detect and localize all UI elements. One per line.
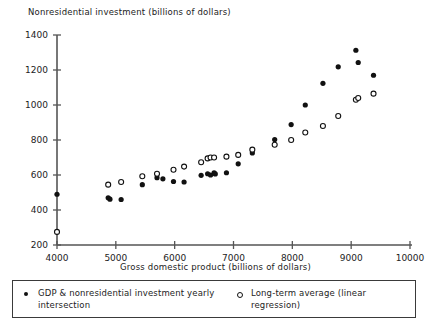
data-point-observed: [371, 73, 376, 78]
data-point-regression: [371, 91, 376, 96]
y-axis-tick-label: 200: [31, 240, 48, 250]
plot-area: 2004006008001000120014004000500060007000…: [0, 0, 431, 262]
y-axis-tick-label: 1000: [25, 100, 48, 110]
x-axis-tick-label: 8000: [281, 253, 304, 262]
data-point-regression: [155, 171, 160, 176]
data-point-regression: [289, 138, 294, 143]
x-axis-title: Gross domestic product (billions of doll…: [0, 262, 431, 272]
data-point-regression: [199, 160, 204, 165]
data-point-observed: [199, 173, 204, 178]
data-point-regression: [224, 154, 229, 159]
y-axis-tick-label: 600: [31, 170, 48, 180]
x-axis-tick-label: 6000: [163, 253, 186, 262]
data-point-observed: [119, 197, 124, 202]
y-axis-tick-label: 800: [31, 135, 48, 145]
scatter-chart: Nonresidential investment (billions of d…: [0, 0, 431, 330]
y-axis-tick-label: 400: [31, 205, 48, 215]
data-point-observed: [303, 102, 308, 107]
data-point-observed: [272, 137, 277, 142]
data-point-observed: [353, 48, 358, 53]
x-axis-tick-label: 9000: [340, 253, 363, 262]
data-point-regression: [212, 155, 217, 160]
x-axis-tick-label: 10000: [396, 253, 425, 262]
data-point-regression: [106, 182, 111, 187]
data-point-observed: [356, 60, 361, 65]
y-axis-tick-label: 1200: [25, 65, 48, 75]
data-point-observed: [224, 170, 229, 175]
data-point-regression: [171, 167, 176, 172]
data-point-observed: [140, 182, 145, 187]
data-point-regression: [236, 152, 241, 157]
y-axis-tick-label: 1400: [25, 30, 48, 40]
data-point-regression: [272, 142, 277, 147]
data-point-regression: [336, 114, 341, 119]
data-point-regression: [356, 96, 361, 101]
filled-circle-icon: [22, 290, 31, 299]
data-point-observed: [289, 122, 294, 127]
data-point-observed: [336, 64, 341, 69]
x-axis-tick-label: 7000: [222, 253, 245, 262]
legend-item-regression: Long-term average (linear regression): [235, 288, 410, 311]
data-point-observed: [213, 171, 218, 176]
data-point-regression: [55, 229, 60, 234]
data-point-regression: [250, 147, 255, 152]
legend-item-observed: GDP & nonresidential investment yearly i…: [22, 288, 230, 311]
legend: GDP & nonresidential investment yearly i…: [12, 280, 416, 318]
data-point-observed: [107, 197, 112, 202]
data-point-regression: [303, 130, 308, 135]
data-point-regression: [320, 124, 325, 129]
data-point-regression: [182, 164, 187, 169]
data-point-regression: [140, 174, 145, 179]
data-point-regression: [119, 180, 124, 185]
data-point-observed: [181, 179, 186, 184]
open-circle-icon: [235, 290, 244, 299]
x-axis-tick-label: 5000: [104, 253, 127, 262]
data-point-observed: [160, 176, 165, 181]
x-axis-tick-label: 4000: [46, 253, 69, 262]
legend-item-label: Long-term average (linear regression): [251, 288, 410, 311]
data-point-observed: [171, 179, 176, 184]
data-point-observed: [236, 161, 241, 166]
data-point-observed: [54, 192, 59, 197]
data-point-observed: [320, 81, 325, 86]
legend-item-label: GDP & nonresidential investment yearly i…: [38, 288, 230, 311]
